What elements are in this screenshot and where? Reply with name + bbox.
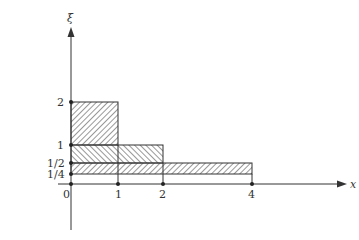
y-tick-label-quarter: 1/4: [47, 168, 65, 181]
hatched-regions: [71, 102, 252, 174]
x-tick-label-4: 4: [248, 188, 255, 201]
x-tick-label-1: 1: [115, 188, 122, 201]
y-axis-label: ξ: [67, 12, 74, 25]
x-axis-arrow-icon: [337, 181, 347, 188]
region-top: [71, 102, 118, 145]
region-bottom: [71, 163, 252, 174]
region-middle: [71, 145, 163, 163]
diagram-canvas: ξ x 0 1 2 4 2 1 1/2 1/4: [0, 0, 359, 240]
y-axis-arrow-icon: [68, 27, 75, 37]
y-tick-label-1: 1: [57, 139, 64, 152]
x-tick-label-2: 2: [159, 188, 166, 201]
x-axis-label: x: [350, 178, 357, 191]
y-tick-label-2: 2: [57, 96, 64, 109]
origin-label: 0: [63, 188, 70, 201]
